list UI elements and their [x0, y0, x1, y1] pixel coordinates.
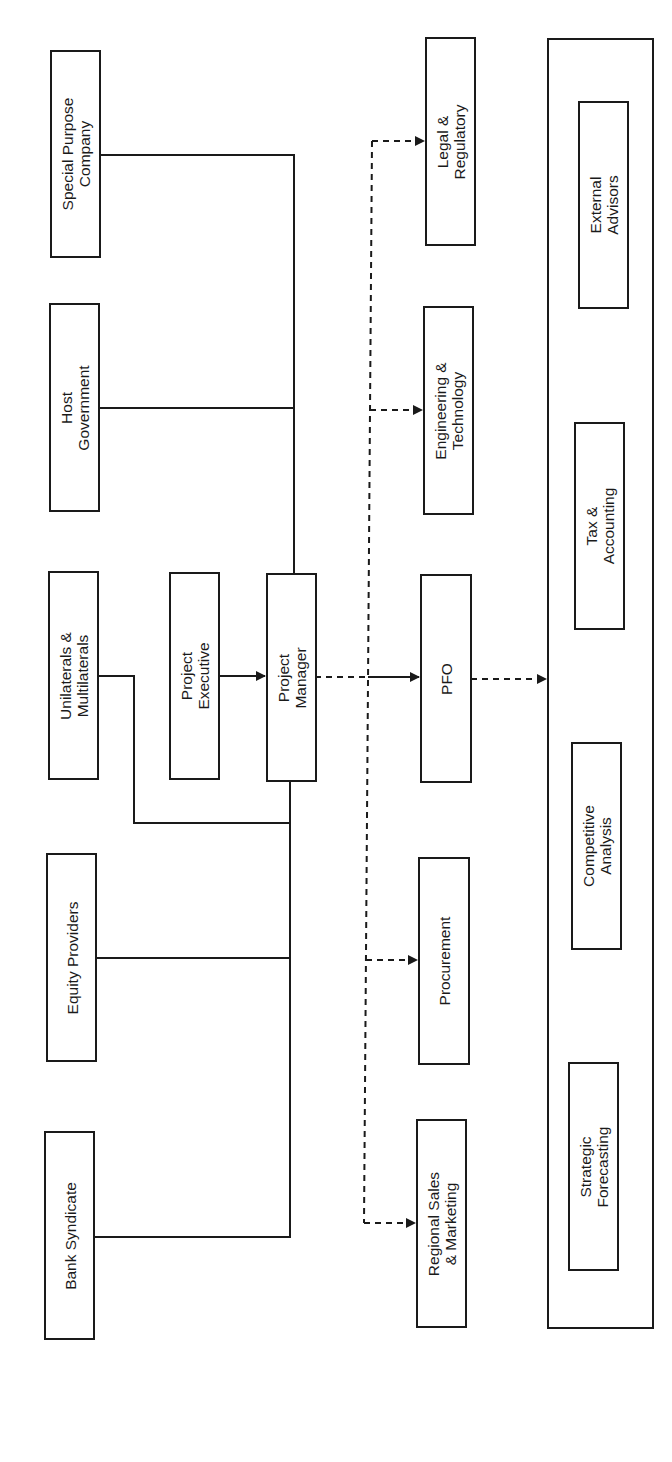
node-project-manager: Project Manager: [266, 573, 317, 782]
spc-connector: [100, 155, 294, 573]
node-label: Project Manager: [275, 578, 309, 778]
node-project-executive: Project Executive: [169, 572, 220, 780]
node-label: Strategic Forecasting: [577, 1067, 611, 1267]
node-engineering-technology: Engineering & Technology: [423, 306, 474, 515]
node-pfo: PFO: [420, 574, 472, 783]
node-host-government: Host Government: [49, 303, 100, 512]
node-tax-accounting: Tax & Accounting: [574, 422, 625, 630]
node-external-advisors: External Advisors: [578, 101, 629, 309]
node-label: Engineering & Technology: [432, 311, 466, 511]
node-special-purpose-company: Special Purpose Company: [50, 50, 101, 258]
node-label: Equity Providers: [63, 858, 80, 1058]
node-label: Host Government: [58, 308, 92, 508]
node-strategic-forecasting: Strategic Forecasting: [568, 1062, 619, 1271]
node-label: Project Executive: [178, 576, 212, 776]
org-diagram: Special Purpose Company Host Government …: [0, 0, 672, 1462]
node-legal-regulatory: Legal & Regulatory: [425, 37, 476, 246]
lower-bus: [93, 781, 290, 1237]
node-regional-sales-marketing: Regional Sales & Marketing: [416, 1119, 467, 1328]
node-label: Legal & Regulatory: [434, 42, 468, 242]
node-label: Regional Sales & Marketing: [425, 1124, 459, 1324]
node-unilaterals-multilaterals: Unilaterals & Multilaterals: [48, 571, 99, 780]
node-label: Unilaterals & Multilaterals: [57, 576, 91, 776]
node-label: Tax & Accounting: [583, 426, 617, 626]
node-label: PFO: [438, 579, 455, 779]
node-label: Special Purpose Company: [59, 54, 93, 254]
node-label: Bank Syndicate: [61, 1136, 78, 1336]
node-label: Procurement: [436, 861, 453, 1061]
node-equity-providers: Equity Providers: [46, 853, 97, 1062]
node-label: Competitive Analysis: [580, 746, 614, 946]
node-label: External Advisors: [587, 105, 621, 305]
node-bank-syndicate: Bank Syndicate: [44, 1131, 95, 1340]
node-procurement: Procurement: [418, 857, 470, 1065]
node-competitive-analysis: Competitive Analysis: [571, 742, 622, 950]
functions-dashed-spine: [364, 141, 372, 1223]
